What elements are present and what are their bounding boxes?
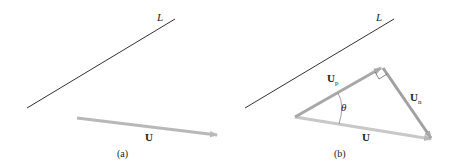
panel-a-caption: (a) (117, 148, 128, 160)
panel-b: L θ Up Un U (b) (245, 11, 431, 160)
normal-un-arrow (383, 68, 431, 138)
line-l-label: L (156, 11, 163, 23)
panel-a: L U (a) (27, 11, 217, 160)
projection-up-arrow (295, 68, 381, 117)
projection-up-label: Up (327, 72, 339, 87)
vector-u-label: U (145, 131, 153, 143)
vector-projection-diagram: L U (a) L θ Up Un U (b) (0, 0, 450, 161)
panel-b-caption: (b) (334, 148, 346, 160)
line-l (27, 19, 175, 108)
angle-theta-label: θ (341, 101, 347, 113)
diagram-canvas: L U (a) L θ Up Un U (b) (0, 0, 450, 161)
vector-u-label: U (362, 131, 370, 143)
line-l (245, 19, 394, 108)
normal-un-label: Un (410, 91, 422, 106)
line-l-label: L (375, 11, 382, 23)
